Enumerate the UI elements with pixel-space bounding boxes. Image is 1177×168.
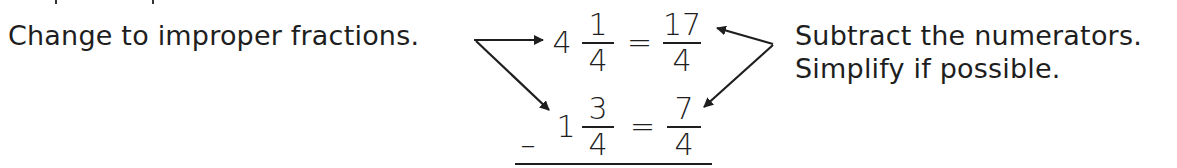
answer-line <box>515 163 712 165</box>
row2-improper-denominator: 4 <box>667 130 701 160</box>
arrow-right-to-top <box>717 28 773 44</box>
arrow-left-to-bottom <box>476 41 549 110</box>
row1-improper-numerator: 17 <box>663 10 701 40</box>
arrow-right-to-bottom <box>704 45 773 107</box>
row1-equals-sign: = <box>627 28 649 58</box>
row1-denominator: 4 <box>582 46 614 76</box>
row2-equals-sign: = <box>630 112 652 142</box>
row2-numerator: 3 <box>582 94 614 124</box>
row2-improper-numerator: 7 <box>667 94 701 124</box>
subtraction-operator: – <box>516 130 540 160</box>
row1-improper-denominator: 4 <box>663 46 701 76</box>
row2-whole-number: 1 <box>556 112 576 142</box>
row1-numerator: 1 <box>582 10 614 40</box>
row1-whole-number: 4 <box>551 28 573 58</box>
row2-denominator: 4 <box>582 130 614 160</box>
